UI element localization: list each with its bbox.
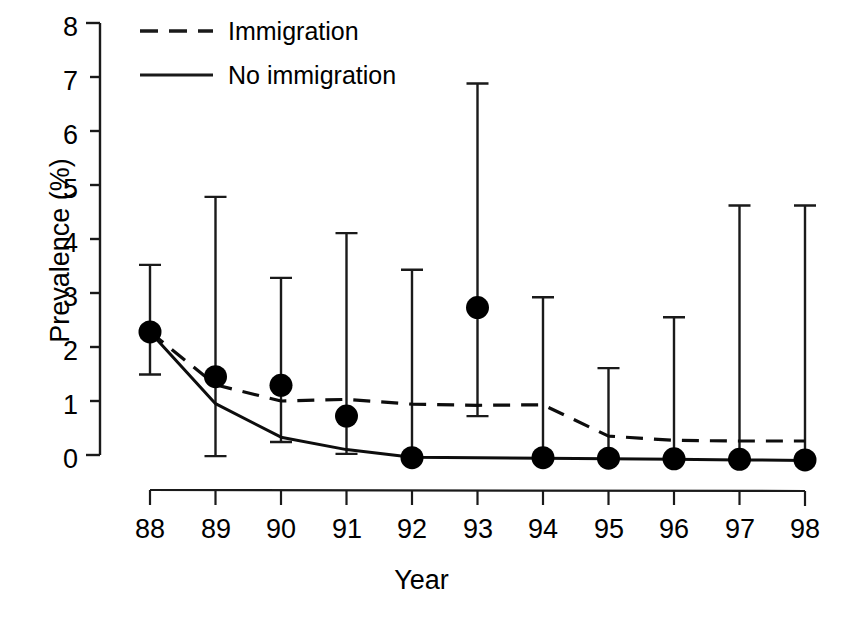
error-bar <box>205 197 227 456</box>
data-point-marker <box>270 374 293 397</box>
error-bar <box>729 206 751 460</box>
data-point-marker <box>728 448 751 471</box>
data-point-marker <box>597 447 620 470</box>
error-bar <box>401 270 423 458</box>
error-bar <box>467 84 489 417</box>
error-bar <box>598 368 620 458</box>
plot-area <box>0 0 843 621</box>
y-axis <box>86 23 100 455</box>
data-point-marker <box>401 446 424 469</box>
error-bar <box>663 317 685 459</box>
data-point-marker <box>663 447 686 470</box>
error-bar <box>532 297 554 457</box>
error-bar <box>270 278 292 442</box>
data-point-marker <box>204 365 227 388</box>
x-axis <box>150 490 805 506</box>
error-bar <box>139 265 161 375</box>
data-point-marker <box>532 446 555 469</box>
prevalence-chart-figure: Prevalence (%) 0 1 2 3 4 5 6 7 8 88 89 9… <box>0 0 843 621</box>
data-point-marker <box>794 448 817 471</box>
error-bar <box>794 206 816 460</box>
data-point-marker <box>466 296 489 319</box>
data-point-marker <box>139 320 162 343</box>
data-point-marker <box>335 405 358 428</box>
error-bars <box>139 84 816 460</box>
